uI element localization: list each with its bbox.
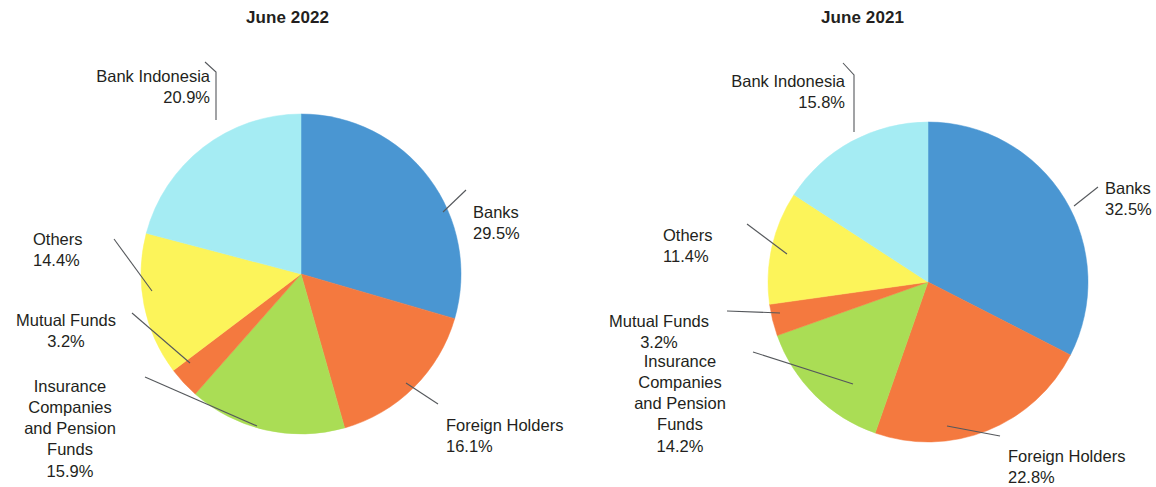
callout-label: Foreign Holders [446,416,563,434]
callout-label: Mutual Funds [609,312,709,330]
callout-label: Banks [1105,179,1151,197]
callout-label: Others [33,230,83,248]
callout-pct: 16.1% [446,436,581,457]
callout-pct: 14.2% [620,436,740,457]
callout-banks-2022: Banks 29.5% [473,181,573,265]
callout-label: Others [663,226,713,244]
callout-label: Insurance Companies and Pension Funds [634,352,726,433]
callout-pct: 20.9% [40,87,210,108]
callout-pct: 22.8% [1008,467,1150,487]
leader-line-banks-b [443,190,466,212]
callout-foreign-holders-2021: Foreign Holders 22.8% [1008,425,1150,487]
callout-others-2022: Others 14.4% [33,208,115,292]
chart-panel-june-2022: June 2022 Bank Indonesia 2 [0,0,575,464]
callout-pct: 3.2% [2,331,130,352]
callout-label: Mutual Funds [16,311,116,329]
callout-others-2021: Others 11.4% [663,204,745,288]
callout-pct: 29.5% [473,223,573,244]
callout-insurance-pension-2021: Insurance Companies and Pension Funds 14… [620,330,740,478]
chart-panel-june-2021: June 2021 Bank Indonesia 15.8% Banks 32.… [575,0,1150,464]
callout-label: Banks [473,203,519,221]
pie-slices-june-2021 [768,122,1088,442]
callout-bank-indonesia-2022: Bank Indonesia 20.9% [40,45,210,129]
callout-insurance-pension-2022: Insurance Companies and Pension Funds 15… [10,355,130,487]
callout-bank-indonesia-2021: Bank Indonesia 15.8% [675,50,845,134]
callout-pct: 32.5% [1105,199,1156,220]
callout-foreign-holders-2022: Foreign Holders 16.1% [446,394,581,478]
leader-line-banks [1074,187,1098,206]
leader-line-foreign-holders [406,383,438,404]
callout-label: Bank Indonesia [731,72,845,90]
callout-label: Insurance Companies and Pension Funds [24,377,116,458]
callout-label: Foreign Holders [1008,447,1125,465]
callout-pct: 15.8% [675,92,845,113]
callout-pct: 11.4% [663,246,745,267]
callout-label: Bank Indonesia [96,67,210,85]
callout-banks-2021: Banks 32.5% [1105,157,1156,241]
pie-slices-june-2022 [141,114,461,434]
callout-pct: 14.4% [33,250,115,271]
callout-pct: 15.9% [10,461,130,482]
